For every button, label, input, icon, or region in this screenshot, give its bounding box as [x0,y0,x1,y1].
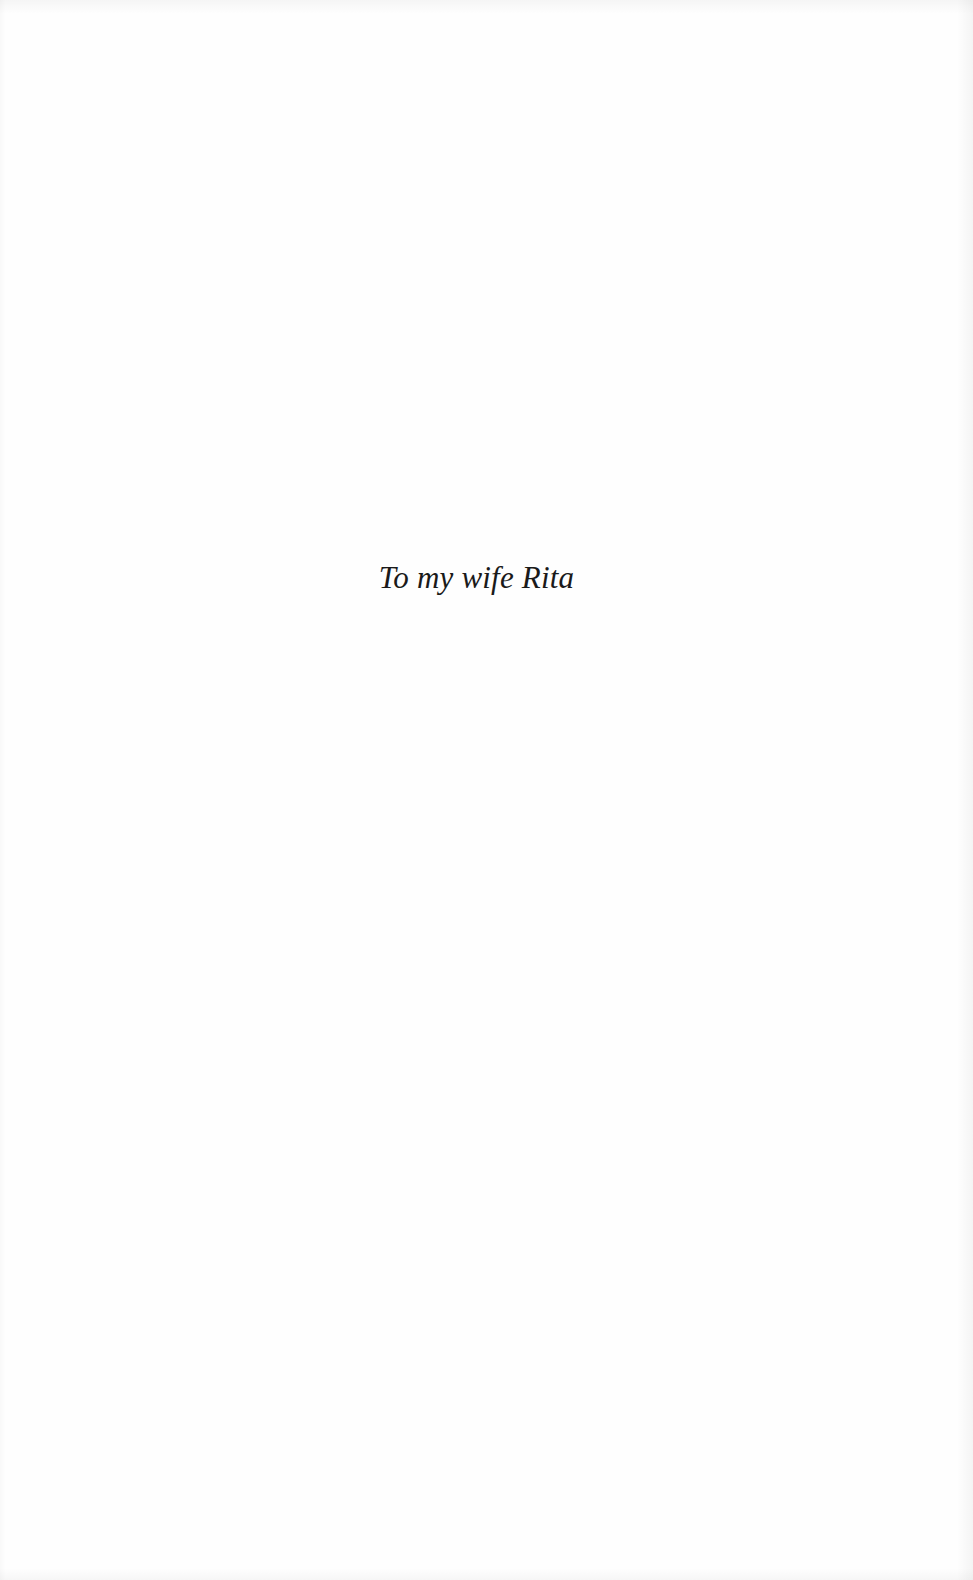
scan-edge-right [957,0,973,1580]
scan-edge-left [0,0,6,1580]
scan-edge-bottom [0,1568,973,1580]
dedication-text: To my wife Rita [0,560,953,596]
scan-edge-top [0,0,973,14]
book-page: To my wife Rita [0,0,973,1580]
